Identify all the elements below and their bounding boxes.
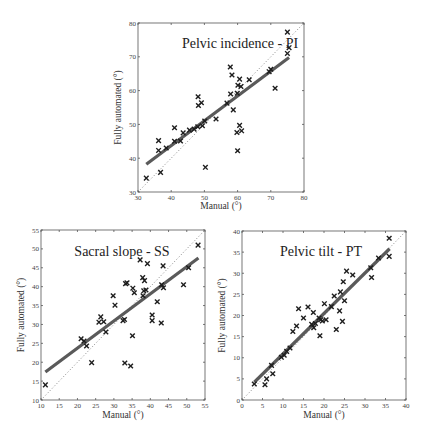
y-tick-label: 15	[32, 378, 40, 386]
data-point-x-marker	[98, 315, 103, 320]
data-point-x-marker	[132, 290, 137, 295]
x-tick-label: 30	[362, 402, 370, 410]
sacral-slope-plot: 1015202530354045505510152025303540455055…	[16, 227, 209, 422]
y-tick-label: 25	[233, 291, 241, 299]
data-point-x-marker	[97, 320, 102, 325]
y-tick-label: 50	[32, 245, 40, 253]
plot-title: Pelvic tilt - PT	[280, 244, 363, 259]
data-point-x-marker	[318, 333, 323, 338]
data-point-x-marker	[264, 377, 269, 382]
data-point-x-marker	[196, 243, 201, 248]
x-axis-label: Manual (°)	[200, 201, 242, 212]
data-point-x-marker	[113, 303, 118, 308]
data-point-x-marker	[43, 383, 48, 388]
y-tick-label: 30	[233, 270, 241, 278]
data-point-x-marker	[101, 320, 106, 325]
data-point-x-marker	[387, 236, 392, 241]
data-point-x-marker	[181, 282, 186, 287]
figure-canvas: 304050607080304050607080 Pelvic incidenc…	[0, 0, 426, 438]
data-point-x-marker	[342, 298, 347, 303]
data-point-x-marker	[235, 130, 240, 135]
data-point-x-marker	[322, 301, 327, 306]
data-point-x-marker	[230, 73, 235, 78]
data-point-x-marker	[306, 305, 311, 310]
data-point-x-marker	[252, 382, 257, 387]
data-point-x-marker	[231, 108, 236, 113]
data-point-x-marker	[341, 279, 346, 284]
data-point-x-marker	[104, 330, 109, 335]
data-point-x-marker	[228, 92, 233, 97]
data-point-x-marker	[203, 165, 208, 170]
x-tick-label: 10	[280, 402, 288, 410]
data-point-x-marker	[273, 86, 278, 91]
x-tick-label: 30	[110, 402, 118, 410]
y-tick-label: 70	[129, 53, 137, 61]
data-point-x-marker	[144, 176, 149, 181]
plot-title: Pelvic incidence - PI	[182, 36, 299, 51]
x-tick-label: 15	[300, 402, 308, 410]
data-point-x-marker	[270, 372, 275, 377]
y-tick-label: 30	[32, 321, 40, 329]
y-tick-label: 30	[129, 189, 137, 197]
x-tick-label: 0	[240, 402, 244, 410]
x-tick-label: 40	[168, 194, 176, 202]
y-tick-label: 35	[32, 302, 40, 310]
data-point-x-marker	[338, 290, 343, 295]
data-point-x-marker	[350, 273, 355, 278]
data-point-x-marker	[84, 344, 89, 349]
data-point-x-marker	[150, 318, 155, 323]
data-point-x-marker	[332, 294, 337, 299]
x-axis-label: Manual (°)	[303, 410, 345, 421]
data-point-x-marker	[294, 324, 299, 329]
y-tick-label: 10	[32, 397, 40, 405]
data-point-x-marker	[172, 125, 177, 130]
y-tick-label: 55	[32, 227, 40, 235]
data-point-x-marker	[89, 360, 94, 365]
data-point-x-marker	[196, 94, 201, 99]
data-point-x-marker	[161, 264, 166, 269]
y-tick-label: 10	[233, 354, 241, 362]
data-point-x-marker	[111, 293, 116, 298]
data-point-x-marker	[285, 51, 290, 56]
data-point-x-marker	[181, 131, 186, 136]
x-axis-label: Manual (°)	[102, 410, 144, 421]
x-tick-label: 45	[165, 402, 173, 410]
y-axis-label: Fully automated (°)	[217, 278, 228, 353]
x-tick-label: 35	[129, 402, 137, 410]
data-point-x-marker	[369, 275, 374, 280]
y-tick-label: 25	[32, 340, 40, 348]
data-point-x-marker	[214, 117, 219, 122]
data-point-x-marker	[291, 329, 296, 334]
x-tick-label: 20	[74, 402, 82, 410]
x-tick-label: 25	[341, 402, 349, 410]
x-tick-label: 15	[56, 402, 64, 410]
data-point-x-marker	[387, 254, 392, 259]
x-tick-label: 25	[92, 402, 100, 410]
y-tick-label: 20	[32, 359, 40, 367]
x-tick-label: 40	[403, 402, 411, 410]
data-point-x-marker	[156, 138, 161, 143]
x-tick-label: 5	[261, 402, 265, 410]
data-point-x-marker	[239, 129, 244, 134]
y-tick-label: 15	[233, 333, 241, 341]
y-tick-label: 45	[32, 264, 40, 272]
data-point-x-marker	[235, 148, 240, 153]
plot-title: Sacral slope - SS	[74, 244, 169, 259]
pelvic-tilt-plot: 05101520253035400510152025303540 Pelvic …	[217, 228, 410, 422]
x-tick-label: 55	[202, 402, 210, 410]
data-point-x-marker	[123, 361, 128, 366]
data-point-x-marker	[156, 148, 161, 153]
data-point-x-marker	[337, 309, 342, 314]
x-tick-label: 40	[147, 402, 155, 410]
data-point-x-marker	[340, 319, 345, 324]
y-tick-label: 40	[129, 155, 137, 163]
data-point-x-marker	[311, 310, 316, 315]
data-point-x-marker	[150, 313, 155, 318]
data-point-x-marker	[128, 364, 133, 369]
data-point-x-marker	[159, 321, 164, 326]
data-point-x-marker	[263, 382, 268, 387]
y-tick-label: 40	[32, 283, 40, 291]
data-point-x-marker	[131, 286, 136, 291]
data-point-x-marker	[158, 170, 163, 175]
data-point-x-marker	[130, 333, 135, 338]
